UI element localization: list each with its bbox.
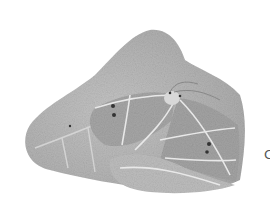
moth-on-leaf-illustration (0, 0, 270, 212)
moth-thorax (164, 91, 180, 105)
edge-glyph: C (264, 148, 270, 161)
